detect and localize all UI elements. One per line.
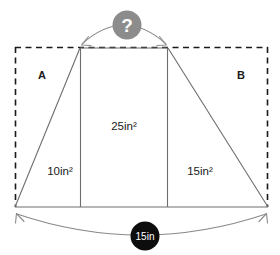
area-label-right-triangle: 15in² [187,165,213,177]
top-margin-spacer [0,0,280,8]
region-label-a: A [38,69,46,81]
figure-canvas: ? 15in A B 10in² 25in² 15in² [0,0,280,255]
base-dimension-badge: 15in [131,222,160,251]
area-label-left-triangle: 10in² [47,165,73,177]
region-label-b: B [237,69,245,81]
geometry-diagram: ? 15in A B 10in² 25in² 15in² [0,0,280,255]
trapezoid-right-slant-edge [168,48,268,207]
unknown-badge-label: ? [121,15,133,36]
area-label-center-rectangle: 25in² [111,120,137,132]
trapezoid-shape [15,48,268,207]
trapezoid-left-slant-edge [15,48,80,207]
unknown-value-badge: ? [113,11,142,40]
dashed-bounding-rectangle [15,47,268,207]
base-dimension-badge-label: 15in [136,231,155,242]
